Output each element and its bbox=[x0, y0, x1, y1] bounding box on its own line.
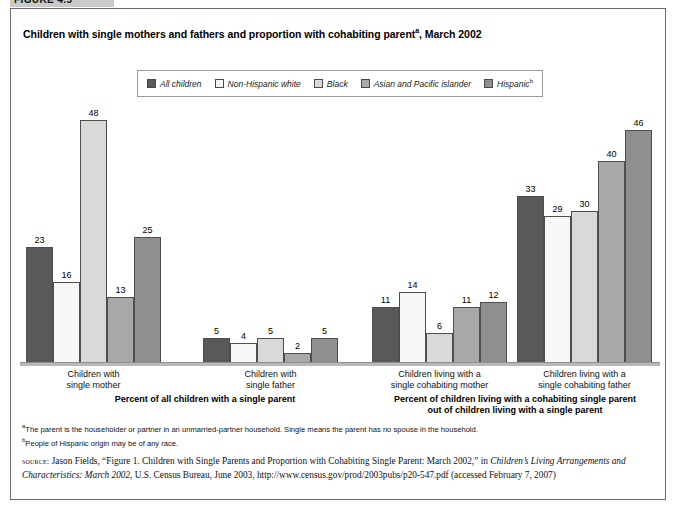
legend-swatch-icon bbox=[314, 79, 323, 88]
page-title: Children with single mothers and fathers… bbox=[23, 27, 633, 40]
legend-swatch-icon bbox=[361, 79, 370, 88]
chart-title-main: Children with single mothers and fathers… bbox=[23, 28, 415, 40]
source-part1: Jason Fields, “Figure 1. Children with S… bbox=[49, 456, 490, 466]
footnote-b: bPeople of Hispanic origin may be of any… bbox=[22, 435, 636, 449]
legend-item-asian-pacific-islander[interactable]: Asian and Pacific islander bbox=[361, 79, 471, 89]
legend-footnote-marker: b bbox=[530, 78, 533, 84]
legend-swatch-icon bbox=[147, 79, 156, 88]
legend-item-non-hispanic-white[interactable]: Non-Hispanic white bbox=[215, 79, 301, 89]
source-part2: , U.S. Census Bureau, June 2003, http://… bbox=[130, 470, 556, 480]
legend-swatch-icon bbox=[484, 79, 493, 88]
legend-label: Asian and Pacific islander bbox=[374, 79, 471, 89]
footnote-text-a: The parent is the householder or partner… bbox=[25, 425, 478, 434]
footnote-a: aThe parent is the householder or partne… bbox=[22, 421, 636, 435]
legend-item-black[interactable]: Black bbox=[314, 79, 348, 89]
legend-label: Hispanicb bbox=[497, 78, 533, 89]
legend-item-hispanic[interactable]: Hispanicb bbox=[484, 78, 533, 89]
footnote-text-b: People of Hispanic origin may be of any … bbox=[25, 438, 178, 447]
legend-label: All children bbox=[160, 79, 202, 89]
footnotes: aThe parent is the householder or partne… bbox=[22, 421, 636, 448]
legend-label: Black bbox=[327, 79, 348, 89]
chart-title-tail: , March 2002 bbox=[419, 28, 481, 40]
figure-tab: FIGURE 4.5 bbox=[10, 0, 114, 7]
chart-legend: All children Non-Hispanic white Black As… bbox=[137, 70, 543, 97]
legend-swatch-icon bbox=[215, 79, 224, 88]
legend-label: Non-Hispanic white bbox=[228, 79, 301, 89]
source-note: source: Jason Fields, “Figure 1. Childre… bbox=[22, 455, 658, 481]
legend-item-all-children[interactable]: All children bbox=[147, 79, 202, 89]
source-label: source: bbox=[22, 457, 49, 466]
